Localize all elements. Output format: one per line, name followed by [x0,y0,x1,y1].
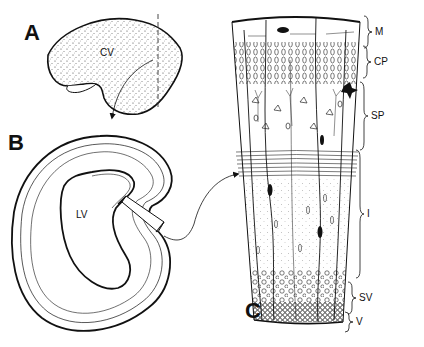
panel-a-vesicle [48,14,182,118]
layer-label-v: V [356,317,363,327]
layer-label-sp: SP [371,111,384,121]
panel-b-section [12,136,238,331]
region-label-cv: CV [100,48,114,58]
layer-label-m: M [375,27,383,37]
panel-c-cortex [225,10,372,332]
panel-label-c: C [245,300,261,322]
panel-label-b: B [8,132,24,154]
panel-label-a: A [24,22,40,44]
layer-label-sv: SV [359,293,372,303]
layer-label-i: I [367,209,370,219]
cortex-development-figure: A B C CV LV M CP SP I SV V [0,0,424,347]
region-label-lv: LV [76,210,88,220]
layer-label-cp: CP [374,57,388,67]
